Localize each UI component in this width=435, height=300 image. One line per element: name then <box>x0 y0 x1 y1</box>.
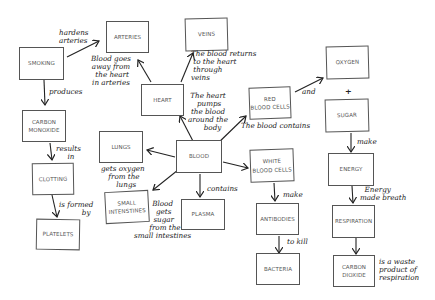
node-respiration: RESPIRATION <box>332 205 375 238</box>
label-make-energy: make <box>357 138 377 146</box>
node-heart: HEART <box>141 84 184 116</box>
label-the-blood-contains: The blood contains <box>241 122 310 130</box>
node-lungs: LUNGS <box>99 131 143 163</box>
label-make-antibodies: make <box>283 191 303 199</box>
label-energy-made-breath: Energy made breath <box>360 186 406 202</box>
node-energy: ENERGY <box>328 153 374 186</box>
label-and: and <box>302 88 316 96</box>
label-produces: produces <box>49 88 83 96</box>
arrow-heart-arteries <box>138 60 151 82</box>
arrow-blood-wbc <box>223 162 248 168</box>
label-heart-pumps: The heart pumps the blood around the bod… <box>188 92 228 132</box>
arrow-blood-lungs <box>147 150 175 157</box>
label-to-kill: to kill <box>287 238 308 246</box>
node-blood: BLOOD <box>176 140 222 173</box>
node-carbon-dioxide: CARBON DIOXIDE <box>333 255 375 287</box>
arrow-wbc-antibodies <box>274 183 275 201</box>
label-gets-oxygen: gets oxygen from the lungs <box>101 165 145 189</box>
label-hardens-arteries: hardens arteries <box>59 29 89 45</box>
arrow-co-clotting <box>50 143 52 160</box>
label-contains: contains <box>207 185 238 193</box>
label-blood-goes-away: Blood goes away from the heart in arteri… <box>91 55 131 87</box>
label-waste-product: is a waste product of respiration <box>379 258 419 282</box>
arrow-smoking-co <box>44 80 45 105</box>
label-blood-returns: The blood returns to the heart through v… <box>191 50 256 82</box>
label-plus: + <box>345 87 352 96</box>
node-bacteria: BACTERIA <box>256 253 300 285</box>
node-carbon-monoxide: CARBON MONOXIDE <box>22 110 66 142</box>
node-red-blood-cells: RED BLOOD CELLS <box>248 86 291 119</box>
label-blood-gets-sugar: Blood gets sugar from the small intestin… <box>134 200 191 240</box>
node-veins: VEINS <box>185 17 229 51</box>
node-white-blood-cells: WHITE BLOOD CELLS <box>249 148 294 183</box>
node-arteries: ARTERIES <box>106 21 149 53</box>
node-sugar: SUGAR <box>325 98 370 132</box>
node-clotting: CLOTTING <box>32 163 75 196</box>
node-smoking: SMOKING <box>19 47 64 80</box>
node-platelets: PLATELETS <box>36 219 81 251</box>
label-results-in: results in <box>56 145 81 161</box>
arrow-energy-respiration <box>352 186 353 203</box>
label-is-formed-by: is formed by <box>59 201 93 217</box>
node-oxygen: OXYGEN <box>326 45 370 79</box>
node-antibodies: ANTIBODIES <box>256 203 299 235</box>
arrow-clotting-platelets <box>52 195 57 217</box>
arrow-blood-intestines <box>153 170 178 190</box>
